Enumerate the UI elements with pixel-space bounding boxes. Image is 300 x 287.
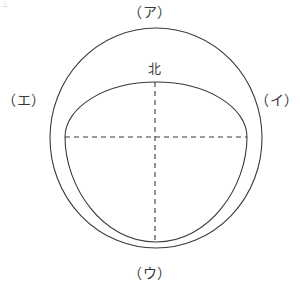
label-direction-e: （エ）: [2, 93, 46, 107]
diagram-canvas: [0, 0, 300, 287]
label-north: 北: [148, 62, 162, 75]
label-direction-a: （ア）: [128, 5, 172, 19]
diagram-figure: ⊥ （ア） （イ） （ウ） （エ） 北: [0, 0, 300, 287]
label-direction-i: （イ）: [255, 93, 299, 107]
label-direction-u: （ウ）: [128, 266, 172, 280]
inner-egg-curve: [65, 82, 247, 242]
